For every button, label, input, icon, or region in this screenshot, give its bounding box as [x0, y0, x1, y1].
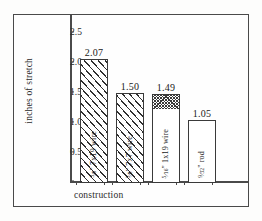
bar-2-numerator: 3 [125, 175, 131, 178]
bar-3-pattern [153, 95, 179, 109]
bar-2-label: 3⁄8" 7x7 wire [126, 136, 134, 178]
x-axis-title: construction [74, 190, 123, 200]
bar-4-denominator: 32 [199, 168, 205, 174]
bar-3-denominator: 16 [163, 168, 169, 174]
bar-2-label-rest: " 7x7 wire [125, 136, 134, 171]
y-axis-title: inches of stretch [24, 58, 38, 124]
bar-3[interactable]: 1.49 5⁄16" 1x19 wire [152, 94, 180, 183]
bar-1-denominator: 8 [91, 171, 97, 174]
bar-4[interactable]: 1.05 9⁄32" rod [188, 120, 216, 183]
plot-area: 2.07 3⁄8" 7x19 wire 1.50 3⁄8" 7x7 wire 1… [70, 18, 242, 183]
chart-figure: inches of stretch 2.5 2.0 1.5 1.0 0.5 2.… [0, 0, 262, 221]
bar-2-value: 1.50 [121, 81, 139, 92]
bar-3-label-rest: " 1x19 wire [161, 129, 170, 168]
bar-3-numerator: 5 [161, 175, 167, 178]
bar-4-label: 9⁄32" rod [198, 151, 206, 178]
bar-1-label-rest: " 7x19 wire [89, 131, 98, 170]
bar-4-label-rest: " rod [197, 151, 206, 168]
bar-3-label: 5⁄16" 1x19 wire [162, 129, 170, 178]
bar-1-value: 2.07 [85, 47, 103, 58]
bar-4-value: 1.05 [193, 108, 211, 119]
bar-4-numerator: 9 [197, 175, 203, 178]
bar-1-label: 3⁄8" 7x19 wire [90, 131, 98, 178]
bar-2[interactable]: 1.50 3⁄8" 7x7 wire [116, 93, 144, 183]
bar-1[interactable]: 2.07 3⁄8" 7x19 wire [80, 59, 108, 183]
bar-3-value: 1.49 [157, 82, 175, 93]
